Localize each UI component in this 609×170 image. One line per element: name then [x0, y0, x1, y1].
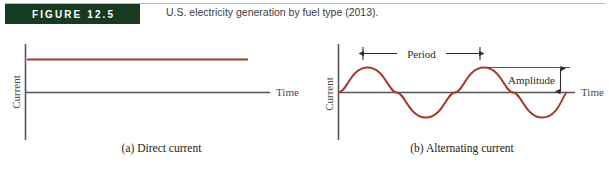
panel-caption-b: (b) Alternating current — [305, 142, 609, 154]
panel-alternating-current: Period Amplitude Current Time (b) Altern… — [305, 36, 609, 170]
direct-current-plot: Current Time — [0, 36, 305, 146]
figure-caption: U.S. electricity generation by fuel type… — [166, 6, 378, 18]
y-axis-label: Current — [323, 77, 335, 111]
figure-page: FIGURE 12.5 U.S. electricity generation … — [0, 0, 609, 170]
figure-number-banner: FIGURE 12.5 — [5, 4, 140, 24]
period-annotation: Period — [363, 47, 480, 60]
y-axis-label: Current — [10, 75, 22, 109]
x-axis-label: Time — [581, 86, 604, 98]
x-axis-label: Time — [276, 86, 299, 98]
amplitude-label: Amplitude — [508, 74, 555, 86]
alternating-current-plot: Period Amplitude Current Time — [305, 36, 609, 146]
panel-direct-current: Current Time (a) Direct current — [0, 36, 305, 170]
amplitude-annotation: Amplitude — [483, 68, 570, 92]
panel-caption-a: (a) Direct current — [0, 142, 305, 154]
figure-number-label: FIGURE 12.5 — [30, 9, 115, 20]
period-label: Period — [407, 48, 436, 60]
